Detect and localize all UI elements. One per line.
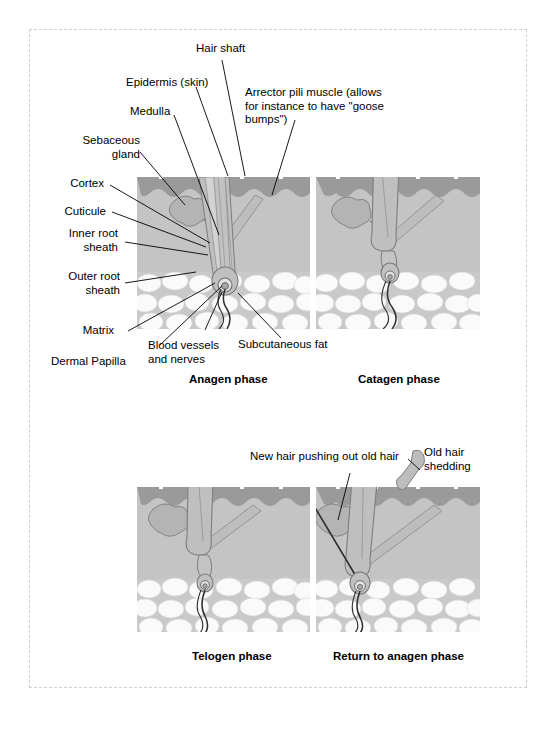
panel-catagen [316, 177, 480, 329]
label-dermal-papilla: Dermal Papilla [51, 355, 126, 369]
caption-anagen-phase: Anagen phase [189, 373, 268, 385]
caption-telogen-phase: Telogen phase [192, 650, 272, 662]
panel-telogen [137, 487, 310, 632]
label-blood-vessels-and-nerves: Blood vessels and nerves [148, 339, 219, 366]
label-subcutaneous-fat: Subcutaneous fat [238, 338, 328, 352]
label-outer-root-sheath: Outer root sheath [40, 270, 120, 297]
label-cuticule: Cuticule [42, 205, 106, 219]
label-new-hair-pushing-out-old-hair: New hair pushing out old hair [250, 450, 399, 464]
label-matrix: Matrix [46, 324, 114, 338]
label-old-hair-shedding: Old hair shedding [424, 446, 471, 473]
label-arrector-pili-muscle: Arrector pili muscle (allows for instanc… [245, 86, 384, 127]
caption-catagen-phase: Catagen phase [358, 373, 440, 385]
label-inner-root-sheath: Inner root sheath [40, 227, 118, 254]
label-medulla: Medulla [130, 105, 170, 119]
label-hair-shaft: Hair shaft [196, 42, 245, 56]
label-epidermis: Epidermis (skin) [126, 76, 208, 90]
label-cortex: Cortex [46, 177, 104, 191]
panel-anagen [137, 177, 310, 329]
caption-return-to-anagen-phase: Return to anagen phase [333, 650, 464, 662]
panel-return-anagen [316, 487, 480, 632]
label-sebaceous-gland: Sebaceous gland [46, 134, 140, 161]
